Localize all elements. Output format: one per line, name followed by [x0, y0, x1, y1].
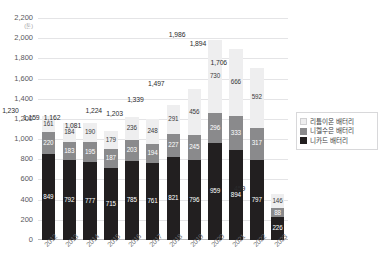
bar-segment-value: 179 [106, 137, 116, 144]
chart-legend: 리튬이온 배터리 니켈수은 배터리 니카드 배터리 [296, 112, 378, 150]
bar-segment-value: 220 [43, 140, 53, 147]
bar-segment-nicd: 959 [208, 143, 222, 240]
legend-item-nicd[interactable]: 니카드 배터리 [300, 137, 374, 145]
bar-segment-value: 666 [231, 79, 241, 86]
y-axis-tick-label: 200 [0, 216, 33, 224]
bar-column[interactable]: 821227291 [167, 105, 181, 240]
bar-total-label: 1,706 [210, 59, 227, 66]
bar-segment-value: 894 [231, 192, 241, 199]
bar-column[interactable]: 715187179 [104, 131, 118, 240]
y-axis-tick-label: 800 [0, 155, 33, 163]
legend-item-liion[interactable]: 리튬이온 배터리 [300, 118, 374, 126]
bar-segment-value: 194 [147, 150, 157, 157]
chart-title-cropped [40, 0, 280, 9]
bar-total-label: 1,986 [169, 31, 186, 38]
bar-segment-value: 227 [168, 142, 178, 149]
bar-segment-value: 236 [127, 125, 137, 132]
bar-segment-value: 183 [64, 148, 74, 155]
bar-column[interactable]: 796245456 [188, 89, 202, 240]
legend-swatch-nicd [300, 137, 307, 144]
bar-segment-value: 88 [274, 210, 281, 217]
bar-segment-liion: 248 [146, 119, 160, 144]
bar-column[interactable]: 792183184 [63, 123, 77, 240]
bar-total-label: 1,081 [65, 122, 82, 129]
bar-segment-value: 317 [252, 140, 262, 147]
bar-segment-nimh: 245 [188, 135, 202, 160]
bar-segment-value: 761 [147, 198, 157, 205]
bar-segment-nicd: 785 [125, 161, 139, 240]
bar-column[interactable]: 797317592 [250, 68, 264, 240]
bar-segment-liion: 190 [83, 123, 97, 142]
legend-label-liion: 리튬이온 배터리 [310, 118, 354, 126]
bar-segment-liion: 456 [188, 89, 202, 135]
bar-segment-value: 146 [272, 198, 282, 205]
legend-label-nicd: 니카드 배터리 [310, 137, 348, 145]
bar-segment-value: 184 [64, 129, 74, 136]
bar-segment-nicd: 849 [42, 154, 56, 240]
bar-segment-nicd: 796 [188, 160, 202, 240]
gridline [38, 18, 288, 19]
bar-total-label: 1,230 [2, 107, 19, 114]
legend-label-nimh: 니켈수은 배터리 [310, 127, 354, 135]
bar-segment-value: 195 [85, 149, 95, 156]
bar-total-label: 1,224 [85, 107, 102, 114]
bar-segment-value: 296 [210, 125, 220, 132]
bar-total-label: 1,203 [106, 110, 123, 117]
bar-segment-nicd: 894 [229, 150, 243, 240]
bar-segment-liion: 730 [208, 40, 222, 114]
bar-segment-nimh: 88 [271, 208, 285, 217]
bar-segment-nicd: 715 [104, 168, 118, 240]
y-axis-tick-label: 400 [0, 196, 33, 204]
bar-segment-nicd: 761 [146, 163, 160, 240]
bar-segment-value: 248 [147, 128, 157, 135]
bar-segment-nimh: 333 [229, 116, 243, 150]
bar-segment-value: 203 [127, 147, 137, 154]
bar-segment-nicd: 792 [63, 160, 77, 240]
bar-segment-value: 959 [210, 188, 220, 195]
bar-segment-value: 849 [43, 194, 53, 201]
bar-segment-nimh: 227 [167, 134, 181, 157]
y-axis-zero-label: 0 [0, 236, 33, 244]
bar-column[interactable]: 849220161 [42, 116, 56, 240]
legend-swatch-liion [300, 118, 307, 125]
bar-column[interactable]: 777195190 [83, 123, 97, 240]
bar-total-label: 1,162 [44, 114, 61, 121]
bar-column[interactable]: 959296730 [208, 40, 222, 240]
bar-segment-value: 291 [168, 116, 178, 123]
gridline [38, 38, 288, 39]
bar-segment-value: 333 [231, 130, 241, 137]
bar-segment-liion: 291 [167, 105, 181, 134]
bar-segment-value: 796 [189, 197, 199, 204]
bar-segment-nimh: 220 [42, 132, 56, 154]
bar-segment-liion: 236 [125, 117, 139, 141]
bar-segment-value: 821 [168, 195, 178, 202]
bar-column[interactable]: 785203236 [125, 117, 139, 241]
y-axis-unit-label: (톤) [0, 23, 33, 30]
bar-segment-nimh: 183 [63, 142, 77, 160]
y-axis-tick-label: 600 [0, 175, 33, 183]
bar-column[interactable]: 894333666 [229, 49, 243, 240]
y-axis-tick-label: 2,200 [0, 14, 33, 22]
bar-segment-nicd: 797 [250, 160, 264, 240]
bar-column[interactable]: 761194248 [146, 119, 160, 240]
bar-total-label: 1,894 [190, 40, 207, 47]
y-axis-tick-label: 1,400 [0, 95, 33, 103]
y-axis-tick-label: 1,600 [0, 75, 33, 83]
bar-segment-nimh: 296 [208, 113, 222, 143]
bar-total-label: 1,339 [127, 96, 144, 103]
bar-segment-value: 797 [252, 197, 262, 204]
gridline [38, 58, 288, 59]
bar-segment-nimh: 187 [104, 149, 118, 168]
plot-area: 8492201617921831847771951907151871797852… [38, 18, 288, 240]
y-axis-tick-label: 1,800 [0, 54, 33, 62]
bar-segment-nicd: 777 [83, 162, 97, 240]
bar-segment-value: 190 [85, 129, 95, 136]
legend-item-nimh[interactable]: 니켈수은 배터리 [300, 127, 374, 135]
legend-swatch-nimh [300, 128, 307, 135]
bar-segment-value: 226 [272, 225, 282, 232]
bar-segment-nimh: 194 [146, 144, 160, 164]
bar-segment-value: 187 [106, 155, 116, 162]
bar-total-label: 1,497 [148, 80, 165, 87]
bar-segment-value: 456 [189, 109, 199, 116]
stacked-bar-chart: 8492201617921831847771951907151871797852… [0, 0, 381, 279]
